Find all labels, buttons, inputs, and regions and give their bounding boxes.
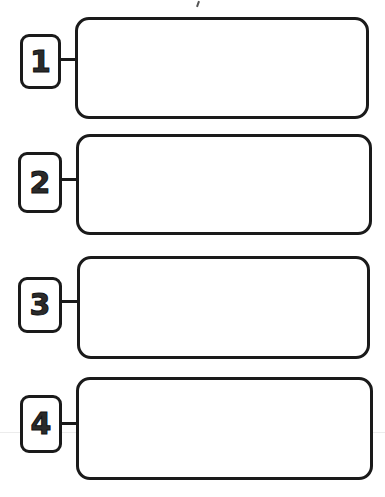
step-number-badge: 3 bbox=[18, 277, 62, 333]
step-content-box[interactable] bbox=[76, 134, 372, 235]
step-number-badge: 2 bbox=[18, 152, 62, 213]
step-number: 3 bbox=[30, 290, 51, 320]
step-number-badge: 1 bbox=[20, 34, 61, 89]
step-number: 1 bbox=[30, 47, 51, 77]
step-content-box[interactable] bbox=[75, 17, 369, 119]
step-number-badge: 4 bbox=[20, 395, 62, 453]
step-content-box[interactable] bbox=[76, 377, 373, 480]
tick-mark bbox=[196, 1, 200, 7]
step-number: 2 bbox=[30, 168, 51, 198]
step-content-box[interactable] bbox=[77, 256, 370, 359]
step-number: 4 bbox=[31, 409, 52, 439]
